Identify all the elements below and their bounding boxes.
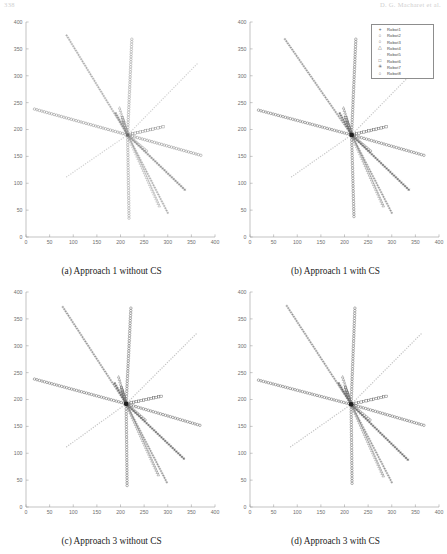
legend-label: Robot6: [386, 59, 401, 64]
y-tick-label: 150: [238, 153, 247, 159]
x-tick-label: 0: [249, 509, 252, 515]
page-number: 338: [4, 1, 15, 8]
x-tick-label: 0: [25, 239, 28, 245]
x-tick-label: 400: [435, 239, 444, 245]
y-tick-label: 250: [238, 370, 247, 376]
x-tick-label: 200: [340, 239, 349, 245]
y-tick-label: 0: [20, 504, 23, 510]
trajectory-robot5: [290, 333, 422, 447]
x-tick-label: 150: [93, 239, 102, 245]
trajectory-robot3: [33, 378, 201, 427]
figure-grid: 0501001502002503003504000501001502002503…: [0, 14, 447, 554]
x-tick-label: 350: [411, 509, 420, 515]
y-tick-label: 400: [14, 19, 23, 25]
y-tick-label: 100: [14, 450, 23, 456]
legend-label: Robot1: [386, 27, 401, 32]
rendezvous-point: [349, 402, 354, 407]
panel-caption-b: (b) Approach 1 with CS: [224, 266, 447, 276]
trajectory-robot2: [350, 38, 357, 218]
y-tick-label: 350: [14, 316, 23, 322]
y-tick-label: 0: [20, 234, 23, 240]
legend-item-robot8: ○Robot8: [374, 71, 431, 77]
trajectory-robot5: [66, 63, 198, 177]
y-tick-label: 200: [238, 396, 247, 402]
trajectory-robot1: [65, 34, 169, 214]
legend-label: Robot3: [386, 40, 401, 45]
axis-spines: [250, 292, 439, 507]
x-tick-label: 100: [293, 509, 302, 515]
y-tick-label: 100: [238, 450, 247, 456]
panel-caption-a: (a) Approach 1 without CS: [0, 266, 223, 276]
x-tick-label: 250: [364, 509, 373, 515]
panel-caption-d: (d) Approach 3 with CS: [224, 536, 447, 546]
y-tick-label: 150: [14, 153, 23, 159]
x-tick-label: 250: [364, 239, 373, 245]
y-tick-label: 150: [14, 423, 23, 429]
legend-label: Robot7: [386, 65, 401, 70]
y-tick-label: 350: [238, 46, 247, 52]
x-tick-label: 100: [69, 509, 78, 515]
plot-area-c: 0501001502002503003504000501001502002503…: [0, 284, 223, 527]
trajectory-robot5: [66, 333, 197, 447]
figure-panel-a: 0501001502002503003504000501001502002503…: [0, 14, 223, 276]
x-tick-label: 350: [187, 509, 196, 515]
y-tick-label: 400: [14, 289, 23, 295]
plot-legend: +Robot1○Robot2○Robot3△Robot4·Robot5□Robo…: [371, 24, 434, 79]
x-tick-label: 0: [25, 509, 28, 515]
x-tick-label: 150: [93, 509, 102, 515]
trajectory-robot1: [62, 306, 168, 484]
legend-label: Robot2: [386, 33, 401, 38]
y-tick-label: 200: [14, 126, 23, 132]
y-tick-label: 250: [14, 370, 23, 376]
scatter-plot-a: 0501001502002503003504000501001502002503…: [0, 14, 223, 257]
x-tick-label: 300: [387, 239, 396, 245]
x-tick-label: 50: [271, 509, 277, 515]
rendezvous-point: [349, 132, 354, 137]
y-tick-label: 100: [238, 180, 247, 186]
x-tick-label: 300: [163, 239, 172, 245]
x-tick-label: 100: [293, 239, 302, 245]
x-tick-label: 150: [317, 239, 326, 245]
legend-label: Robot8: [386, 71, 401, 76]
figure-panel-d: 0501001502002503003504000501001502002503…: [224, 284, 447, 546]
y-tick-label: 350: [238, 316, 247, 322]
y-tick-label: 300: [14, 343, 23, 349]
axis-spines: [26, 292, 215, 507]
y-tick-label: 300: [14, 73, 23, 79]
plot-area-a: 0501001502002503003504000501001502002503…: [0, 14, 223, 257]
x-tick-label: 250: [140, 239, 149, 245]
plot-area-d: 0501001502002503003504000501001502002503…: [224, 284, 447, 527]
legend-label: Robot5: [386, 52, 401, 57]
y-tick-label: 0: [244, 234, 247, 240]
x-tick-label: 50: [47, 239, 53, 245]
trajectory-robot2: [125, 307, 132, 487]
trajectory-robot1: [286, 305, 393, 484]
figure-panel-b: 0501001502002503003504000501001502002503…: [224, 14, 447, 276]
trajectory-robot2: [350, 307, 356, 485]
y-tick-label: 0: [244, 504, 247, 510]
scatter-plot-d: 0501001502002503003504000501001502002503…: [224, 284, 447, 527]
y-tick-label: 300: [238, 343, 247, 349]
circle-marker-icon: ○: [374, 71, 386, 77]
legend-label: Robot4: [386, 46, 401, 51]
scatter-plot-c: 0501001502002503003504000501001502002503…: [0, 284, 223, 527]
running-head: D. G. Macharet et al.: [380, 1, 441, 8]
panel-caption-c: (c) Approach 3 without CS: [0, 536, 223, 546]
trajectory-robot5: [291, 64, 421, 177]
y-tick-label: 250: [238, 100, 247, 106]
y-tick-label: 150: [238, 423, 247, 429]
x-tick-label: 100: [69, 239, 78, 245]
x-tick-label: 50: [271, 239, 277, 245]
x-tick-label: 200: [116, 239, 125, 245]
rendezvous-point: [124, 401, 129, 406]
trajectory-robot3: [257, 379, 425, 427]
x-tick-label: 400: [211, 509, 220, 515]
x-tick-label: 400: [435, 509, 444, 515]
y-tick-label: 200: [238, 126, 247, 132]
y-tick-label: 250: [14, 100, 23, 106]
page-header: 338 D. G. Macharet et al.: [0, 0, 447, 12]
x-tick-label: 400: [211, 239, 220, 245]
x-tick-label: 300: [163, 509, 172, 515]
x-tick-label: 250: [140, 509, 149, 515]
x-tick-label: 200: [116, 509, 125, 515]
